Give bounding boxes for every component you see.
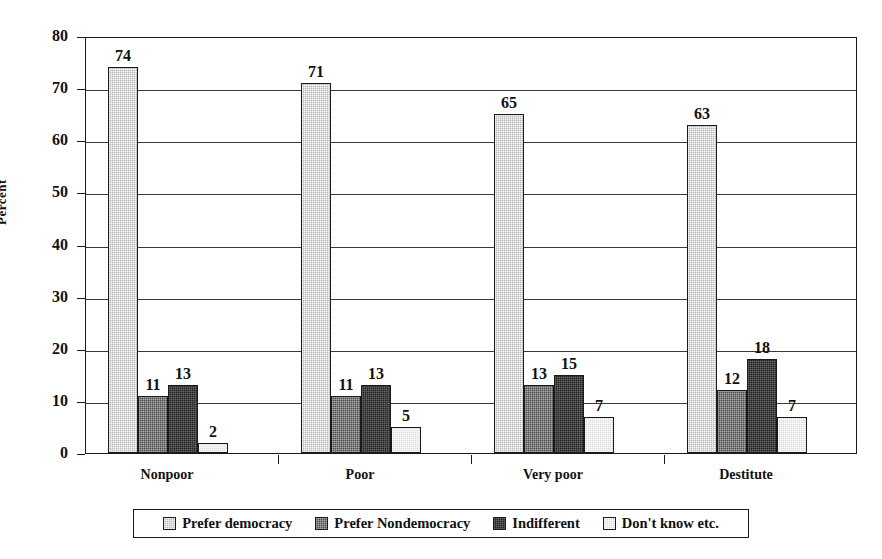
chart-legend: Prefer democracyPrefer NondemocracyIndif… — [133, 509, 749, 538]
bar: 12 — [717, 390, 747, 453]
y-axis-tick-mark — [77, 402, 85, 403]
y-axis-tick-mark — [77, 141, 85, 142]
x-axis-category-label: Poor — [346, 467, 375, 483]
bar-value-label: 63 — [694, 105, 710, 123]
legend-label: Prefer Nondemocracy — [334, 515, 470, 532]
y-axis-tick-mark — [77, 37, 85, 38]
y-axis-tick-label: 80 — [34, 27, 68, 45]
bar-value-label: 13 — [531, 365, 547, 383]
legend-label: Don't know etc. — [622, 515, 719, 532]
bar: 15 — [554, 375, 584, 453]
bar-value-label: 15 — [561, 355, 577, 373]
bar-value-label: 13 — [175, 365, 191, 383]
legend-item[interactable]: Prefer Nondemocracy — [315, 515, 470, 532]
bar-value-label: 5 — [402, 407, 410, 425]
gridline — [86, 299, 856, 300]
bar: 13 — [361, 385, 391, 453]
y-axis-tick-label: 50 — [34, 183, 68, 201]
gridline — [86, 142, 856, 143]
y-axis-tick-label: 70 — [34, 79, 68, 97]
bar-value-label: 2 — [209, 423, 217, 441]
legend-swatch-dont-know — [603, 517, 616, 530]
x-axis-category-label: Very poor — [523, 467, 583, 483]
bar-value-label: 7 — [788, 397, 796, 415]
x-axis-tick-mark — [471, 455, 472, 464]
y-axis-tick-label: 30 — [34, 288, 68, 306]
y-axis-tick-mark — [77, 454, 85, 455]
gridline — [86, 351, 856, 352]
gridline — [86, 90, 856, 91]
bar: 5 — [391, 427, 421, 453]
bar: 13 — [168, 385, 198, 453]
y-axis-tick-label: 60 — [34, 131, 68, 149]
y-axis-tick-mark — [77, 350, 85, 351]
y-axis-tick-label: 10 — [34, 392, 68, 410]
bar-value-label: 11 — [338, 376, 353, 394]
y-axis-tick-mark — [77, 246, 85, 247]
legend-item[interactable]: Indifferent — [493, 515, 579, 532]
gridline — [86, 247, 856, 248]
y-axis-tick-label: 40 — [34, 236, 68, 254]
bar-value-label: 7 — [595, 397, 603, 415]
bar-value-label: 65 — [501, 94, 517, 112]
gridline — [86, 194, 856, 195]
bar-value-label: 18 — [754, 339, 770, 357]
bar: 13 — [524, 385, 554, 453]
bar-value-label: 12 — [724, 370, 740, 388]
legend-swatch-indifferent — [493, 517, 506, 530]
bar: 11 — [331, 396, 361, 453]
x-axis-tick-mark — [664, 455, 665, 464]
legend-item[interactable]: Don't know etc. — [603, 515, 719, 532]
bar: 11 — [138, 396, 168, 453]
y-axis-tick-mark — [77, 193, 85, 194]
legend-swatch-prefer-democracy — [163, 517, 176, 530]
bar: 7 — [584, 417, 614, 453]
bar: 7 — [777, 417, 807, 453]
y-axis-tick-mark — [77, 298, 85, 299]
legend-label: Indifferent — [512, 515, 579, 532]
bar-value-label: 11 — [145, 376, 160, 394]
y-axis-tick-label: 20 — [34, 340, 68, 358]
bar-value-label: 74 — [115, 47, 131, 65]
legend-label: Prefer democracy — [182, 515, 292, 532]
y-axis-tick-mark — [77, 89, 85, 90]
bar-value-label: 71 — [308, 63, 324, 81]
bar: 2 — [198, 443, 228, 453]
y-axis-tick-label: 0 — [34, 444, 68, 462]
bar-value-label: 13 — [368, 365, 384, 383]
bar: 74 — [108, 67, 138, 453]
bar: 63 — [687, 125, 717, 453]
legend-item[interactable]: Prefer democracy — [163, 515, 292, 532]
bar: 65 — [494, 114, 524, 453]
bar: 71 — [301, 83, 331, 453]
x-axis-tick-mark — [278, 455, 279, 464]
legend-swatch-prefer-nondemocracy — [315, 517, 328, 530]
bar: 18 — [747, 359, 777, 453]
x-axis-category-label: Destitute — [719, 467, 773, 483]
chart-figure: Percent 01020304050607080 74111327111135… — [0, 0, 882, 559]
plot-area: 7411132711113565131576312187 — [85, 37, 857, 454]
y-axis-title: Percent — [0, 179, 10, 225]
x-axis-category-label: Nonpoor — [141, 467, 194, 483]
